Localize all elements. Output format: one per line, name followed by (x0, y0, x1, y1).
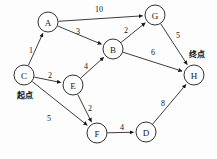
edge-weight-g-h: 5 (176, 31, 180, 40)
edge-weight-b-g: 2 (124, 26, 128, 35)
graph-node-f[interactable]: F (87, 123, 107, 143)
graph-edge-e-f (78, 94, 92, 121)
edge-weight-c-f: 5 (47, 114, 51, 123)
graph-edge-c-e (34, 77, 60, 82)
edge-weight-e-f: 2 (88, 104, 92, 113)
graph-edge-c-a (28, 33, 43, 65)
node-circle-g[interactable] (145, 5, 165, 25)
edge-weight-f-d: 4 (120, 123, 124, 132)
graph-edge-a-b (58, 26, 102, 44)
graph-node-h[interactable]: H (184, 65, 204, 85)
graph-edge-f-d (108, 132, 134, 133)
node-circle-c[interactable] (14, 65, 34, 85)
nodes-layer: AGBCEHFD (14, 5, 204, 143)
node-circle-h[interactable] (184, 65, 204, 85)
node-circle-a[interactable] (38, 12, 58, 32)
graph-node-g[interactable]: G (145, 5, 165, 25)
graph-edge-e-b (81, 57, 104, 78)
graph-diagram: 1031254226548 AGBCEHFD 起点终点 (0, 0, 217, 159)
graph-node-a[interactable]: A (38, 12, 58, 32)
edge-weight-c-a: 1 (29, 46, 33, 55)
edge-weight-d-h: 8 (161, 99, 165, 108)
graph-edge-b-g (121, 23, 145, 43)
node-circle-b[interactable] (103, 39, 123, 59)
graph-edge-d-h (153, 85, 186, 124)
graph-node-b[interactable]: B (103, 39, 123, 59)
graph-svg-canvas: 1031254226548 AGBCEHFD 起点终点 (0, 0, 217, 159)
node-circle-f[interactable] (87, 123, 107, 143)
graph-node-d[interactable]: D (136, 122, 156, 142)
end-point-label: 终点 (188, 49, 205, 59)
node-circle-d[interactable] (136, 122, 156, 142)
graph-edge-g-h (161, 24, 187, 65)
edge-weight-a-g: 10 (95, 5, 103, 14)
edge-weight-b-h: 6 (151, 48, 155, 57)
edge-weight-e-b: 4 (84, 62, 88, 71)
graph-edge-a-g (58, 16, 142, 21)
graph-node-c[interactable]: C (14, 65, 34, 85)
edge-weight-c-e: 2 (48, 71, 52, 80)
graph-edge-b-h (123, 52, 182, 71)
node-circle-e[interactable] (63, 75, 83, 95)
graph-node-e[interactable]: E (63, 75, 83, 95)
edges-layer (28, 16, 187, 133)
start-point-label: 起点 (16, 90, 33, 100)
